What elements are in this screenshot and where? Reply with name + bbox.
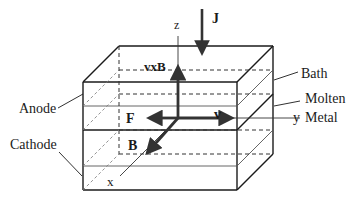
- cathode-leader: [59, 152, 82, 176]
- left-bottom-diag: [83, 154, 119, 190]
- cathode-label: Cathode: [10, 137, 57, 152]
- left-layer-diag-1: [83, 70, 119, 106]
- j-label: J: [212, 11, 219, 26]
- v-label: v: [214, 107, 221, 122]
- vxb-label: vxB: [144, 59, 166, 74]
- cell-diagram: z J vxB F v B x y Bath Molten Metal Anod…: [0, 0, 363, 205]
- f-label: F: [126, 111, 135, 126]
- right-top-edge: [237, 46, 273, 82]
- x-axis-label: x: [107, 174, 114, 189]
- b-label: B: [128, 138, 137, 153]
- z-axis-label: z: [174, 18, 179, 32]
- right-layer-line-2: [237, 94, 273, 130]
- left-layer-diag-2: [83, 94, 119, 130]
- molten-metal-leader: [274, 101, 300, 106]
- anode-leader: [58, 94, 83, 108]
- right-layer-line-1: [237, 70, 273, 106]
- bath-leader: [274, 72, 298, 80]
- left-top-edge: [83, 46, 119, 82]
- hidden-edges: [119, 46, 273, 154]
- y-axis-label: y: [293, 110, 300, 125]
- b-arrow: [148, 118, 178, 152]
- anode-label: Anode: [19, 101, 56, 116]
- molten-label: Molten: [305, 91, 345, 106]
- bath-label: Bath: [301, 66, 327, 81]
- right-layer-line-3: [237, 130, 273, 166]
- right-bottom-edge: [237, 154, 273, 190]
- left-layer-diag-3: [83, 130, 119, 166]
- metal-label: Metal: [305, 110, 338, 125]
